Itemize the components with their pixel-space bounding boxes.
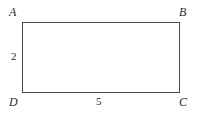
rectangle-figure-canvas: A B C D 2 5 [0, 0, 200, 115]
rectangle-abcd-shape [22, 22, 180, 93]
vertex-label-b: B [179, 6, 186, 18]
vertex-label-c: C [179, 96, 187, 108]
side-length-label-dc: 5 [96, 96, 102, 107]
side-length-label-ad: 2 [11, 51, 17, 62]
vertex-label-d: D [9, 96, 18, 108]
vertex-label-a: A [9, 6, 16, 18]
